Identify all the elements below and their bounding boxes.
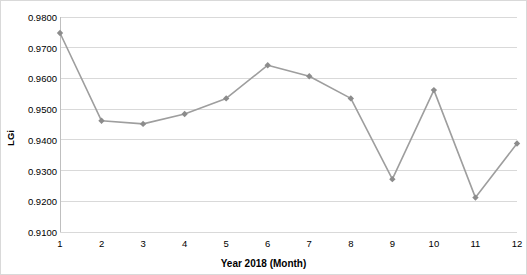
x-axis-tick-labels: 123456789101112 xyxy=(1,1,527,275)
x-tick-label: 5 xyxy=(224,238,229,249)
x-tick-label: 8 xyxy=(348,238,353,249)
x-axis-title: Year 2018 (Month) xyxy=(1,258,526,269)
x-tick-label: 4 xyxy=(182,238,187,249)
x-tick-label: 1 xyxy=(57,238,62,249)
x-tick-label: 3 xyxy=(140,238,145,249)
x-tick-label: 7 xyxy=(307,238,312,249)
y-axis-title: LGi xyxy=(5,130,16,146)
x-tick-label: 10 xyxy=(429,238,440,249)
x-tick-label: 9 xyxy=(390,238,395,249)
x-tick-label: 2 xyxy=(99,238,104,249)
chart-container: 0.91000.92000.93000.94000.95000.96000.97… xyxy=(0,0,527,275)
x-tick-label: 11 xyxy=(471,238,481,249)
x-tick-label: 12 xyxy=(512,238,523,249)
x-tick-label: 6 xyxy=(265,238,270,249)
